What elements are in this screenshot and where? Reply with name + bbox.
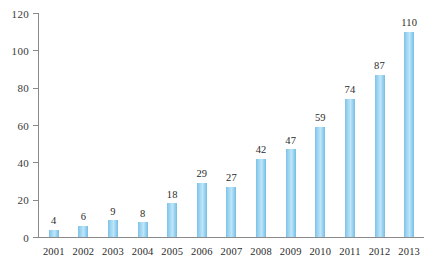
x-axis-label: 2003	[102, 246, 124, 257]
bar-value-label: 6	[81, 212, 86, 223]
y-axis-tick: 120	[33, 13, 38, 14]
bar-chart: 020406080100120 46981829274247597487110 …	[0, 0, 428, 272]
x-axis-label-slot: 2001	[39, 241, 69, 260]
plot-area: 46981829274247597487110	[39, 13, 424, 237]
bar[interactable]	[226, 187, 236, 237]
bar-group: 74	[335, 13, 365, 237]
y-axis-tick-label: 60	[17, 120, 29, 131]
bar-value-label: 8	[140, 209, 145, 220]
x-axis-label-slot: 2007	[217, 241, 247, 260]
x-axis-label-slot: 2010	[306, 241, 336, 260]
y-axis-tick-label: 100	[12, 45, 29, 56]
x-axis-label: 2012	[369, 246, 391, 257]
x-axis-label: 2007	[221, 246, 243, 257]
bar-value-label: 27	[226, 173, 237, 184]
y-axis-tick-label: 40	[17, 157, 29, 168]
x-axis-label: 2008	[250, 246, 272, 257]
y-axis-tick: 40	[33, 162, 38, 163]
x-axis-label: 2010	[309, 246, 331, 257]
x-axis-label: 2002	[73, 246, 95, 257]
bar[interactable]	[78, 226, 88, 237]
bar-group: 87	[365, 13, 395, 237]
x-axis-label-slot: 2008	[246, 241, 276, 260]
x-axis-label-slot: 2004	[128, 241, 158, 260]
bar-group: 42	[246, 13, 276, 237]
x-axis-label-slot: 2013	[394, 241, 424, 260]
x-axis-label: 2004	[132, 246, 154, 257]
bar[interactable]	[286, 149, 296, 237]
x-axis-label-slot: 2006	[187, 241, 217, 260]
bar[interactable]	[108, 220, 118, 237]
bar-value-label: 9	[110, 207, 115, 218]
x-axis-label-slot: 2005	[157, 241, 187, 260]
y-axis-tick: 20	[33, 200, 38, 201]
bar-group: 6	[69, 13, 99, 237]
bar-group: 29	[187, 13, 217, 237]
y-axis-tick: 0	[33, 237, 38, 238]
x-axis-label: 2009	[280, 246, 302, 257]
bar-group: 27	[217, 13, 247, 237]
bar-value-label: 4	[51, 216, 56, 227]
bar[interactable]	[256, 159, 266, 237]
x-axis-label-slot: 2003	[98, 241, 128, 260]
bar-value-label: 47	[285, 136, 296, 147]
bar-group: 59	[306, 13, 336, 237]
bar-group: 9	[98, 13, 128, 237]
bar[interactable]	[138, 222, 148, 237]
bar[interactable]	[375, 75, 385, 237]
x-axis-label-slot: 2009	[276, 241, 306, 260]
x-axis-label: 2005	[161, 246, 183, 257]
x-axis-label-slot: 2011	[335, 241, 365, 260]
bar-value-label: 18	[167, 190, 178, 201]
y-axis-tick-label: 120	[12, 8, 29, 19]
x-axis-label-slot: 2002	[69, 241, 99, 260]
bar[interactable]	[404, 32, 414, 237]
y-axis-tick: 80	[33, 88, 38, 89]
x-axis-line	[38, 237, 424, 238]
x-axis-label: 2011	[339, 246, 360, 257]
bar[interactable]	[197, 183, 207, 237]
y-axis-tick-label: 20	[17, 195, 29, 206]
bar-group: 110	[394, 13, 424, 237]
y-axis-tick-label: 0	[23, 232, 29, 243]
x-axis-label: 2006	[191, 246, 213, 257]
y-axis-tick: 100	[33, 50, 38, 51]
bar[interactable]	[49, 230, 59, 237]
bar-value-label: 110	[401, 18, 417, 29]
x-axis-labels: 2001200220032004200520062007200820092010…	[39, 241, 424, 261]
bar[interactable]	[345, 99, 355, 237]
x-axis-label-slot: 2012	[365, 241, 395, 260]
bar[interactable]	[315, 127, 325, 237]
x-axis-label: 2013	[398, 246, 420, 257]
bar-value-label: 87	[374, 61, 385, 72]
bar-value-label: 59	[315, 113, 326, 124]
bar-value-label: 42	[256, 145, 267, 156]
bar-group: 4	[39, 13, 69, 237]
bar-value-label: 29	[196, 169, 207, 180]
bar-group: 47	[276, 13, 306, 237]
y-axis-tick: 60	[33, 125, 38, 126]
bar[interactable]	[167, 203, 177, 237]
bar-group: 8	[128, 13, 158, 237]
bar-value-label: 74	[344, 85, 355, 96]
y-axis-tick-label: 80	[17, 83, 29, 94]
bar-group: 18	[157, 13, 187, 237]
x-axis-label: 2001	[43, 246, 65, 257]
